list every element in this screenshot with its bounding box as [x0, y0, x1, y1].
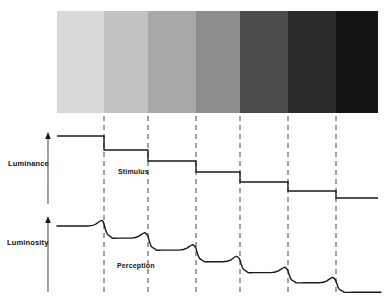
luminance-axis-label: Luminance	[8, 159, 49, 168]
figure-canvas	[0, 0, 387, 297]
mach-band-figure: Luminance Luminosity Stimulus Perception	[0, 0, 387, 297]
band-1	[57, 11, 104, 113]
band-6	[288, 11, 336, 113]
stimulus-curve-label: Stimulus	[118, 168, 149, 175]
band-7	[336, 11, 378, 113]
luminosity-axis	[45, 216, 51, 292]
luminance-axis-arrowhead	[45, 132, 51, 139]
luminosity-axis-arrowhead	[45, 216, 51, 223]
perception-mach-curve	[57, 221, 381, 293]
luminance-axis	[45, 132, 51, 204]
band-2	[104, 11, 148, 113]
luminosity-axis-label: Luminosity	[7, 238, 49, 247]
stimulus-step-curve	[57, 136, 378, 198]
perception-curve-label: Perception	[117, 262, 155, 269]
band-4	[196, 11, 240, 113]
band-3	[148, 11, 196, 113]
grayscale-band-strip	[57, 11, 378, 113]
band-5	[240, 11, 288, 113]
